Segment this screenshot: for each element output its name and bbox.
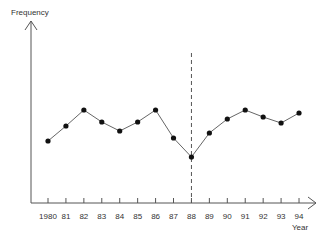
data-point-marker — [81, 107, 86, 112]
data-point-marker — [63, 123, 68, 128]
data-point-marker — [243, 107, 248, 112]
x-tick-label: 88 — [187, 212, 196, 221]
x-tick-label: 92 — [259, 212, 268, 221]
x-tick-label: 85 — [133, 212, 142, 221]
x-tick-label: 93 — [277, 212, 286, 221]
data-point-marker — [99, 119, 104, 124]
y-axis-label: Frequency — [11, 8, 49, 17]
data-point-marker — [189, 154, 194, 159]
data-point-marker — [225, 116, 230, 121]
x-tick-label: 1980 — [39, 212, 57, 221]
x-axis-label: Year — [292, 223, 309, 232]
data-point-marker — [171, 135, 176, 140]
data-point-marker — [261, 114, 266, 119]
series-frequency — [45, 107, 301, 159]
data-point-marker — [135, 119, 140, 124]
x-tick-label: 90 — [223, 212, 232, 221]
x-tick-label: 84 — [115, 212, 124, 221]
data-point-marker — [278, 120, 283, 125]
data-point-marker — [153, 107, 158, 112]
x-ticks: 19808182838485868788899091929394 — [39, 198, 304, 221]
x-tick-label: 89 — [205, 212, 214, 221]
data-point-marker — [296, 110, 301, 115]
x-tick-label: 81 — [61, 212, 70, 221]
axes: Frequency Year — [11, 8, 316, 232]
x-tick-label: 87 — [169, 212, 178, 221]
x-tick-label: 94 — [295, 212, 304, 221]
data-point-marker — [117, 128, 122, 133]
line-chart: Frequency Year 1980818283848586878889909… — [0, 0, 327, 242]
data-point-marker — [207, 130, 212, 135]
x-tick-label: 82 — [79, 212, 88, 221]
data-point-marker — [45, 138, 50, 143]
x-tick-label: 83 — [97, 212, 106, 221]
x-tick-label: 91 — [241, 212, 250, 221]
x-tick-label: 86 — [151, 212, 160, 221]
